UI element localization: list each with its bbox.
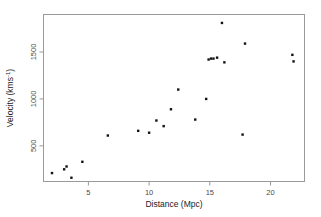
y-axis-title-close: )	[5, 69, 15, 72]
data-point	[241, 133, 243, 135]
data-point	[107, 134, 109, 136]
data-point	[223, 61, 225, 63]
plot-svg: 5101520 50010001500 Distance (Mpc) Veloc…	[0, 0, 321, 217]
y-tick-label-1000: 1000	[29, 91, 38, 108]
y-tick-label-500: 500	[29, 140, 38, 153]
data-point	[194, 118, 196, 120]
y-axis-ticks	[40, 52, 44, 146]
y-axis-title-main: Velocity (kms	[5, 77, 15, 127]
x-axis-ticks	[88, 182, 270, 186]
x-tick-label-5: 5	[86, 188, 90, 197]
data-point	[216, 56, 218, 58]
data-point	[70, 177, 72, 179]
data-point	[221, 22, 223, 24]
data-point	[210, 57, 212, 59]
x-axis-tick-labels: 5101520	[86, 188, 274, 197]
data-point	[205, 98, 207, 100]
data-point	[162, 125, 164, 127]
data-point	[177, 88, 179, 90]
data-point	[137, 130, 139, 132]
y-tick-label-1500: 1500	[29, 44, 38, 61]
plot-frame	[44, 15, 305, 182]
x-tick-label-20: 20	[266, 188, 274, 197]
data-point	[170, 108, 172, 110]
data-point	[207, 58, 209, 60]
x-axis-title: Distance (Mpc)	[145, 199, 202, 209]
data-points	[51, 22, 295, 179]
x-tick-label-15: 15	[206, 188, 214, 197]
svg-text:Velocity (kms-1): Velocity (kms-1)	[5, 69, 15, 127]
y-axis-tick-labels: 50010001500	[29, 44, 38, 152]
data-point	[292, 60, 294, 62]
data-point	[291, 54, 293, 56]
data-point	[63, 168, 65, 170]
y-axis-title: Velocity (kms-1)	[5, 69, 15, 127]
data-point	[155, 119, 157, 121]
data-point	[148, 132, 150, 134]
data-point	[81, 161, 83, 163]
data-point	[65, 165, 67, 167]
scatter-plot-figure: 5101520 50010001500 Distance (Mpc) Veloc…	[0, 0, 321, 217]
data-point	[212, 57, 214, 59]
data-point	[51, 172, 53, 174]
x-tick-label-10: 10	[145, 188, 153, 197]
data-point	[244, 42, 246, 44]
